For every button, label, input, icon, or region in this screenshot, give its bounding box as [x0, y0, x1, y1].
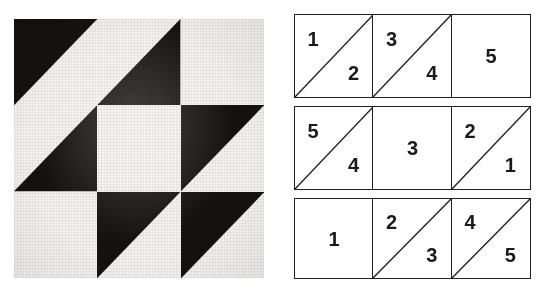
quilt-block-photo: [14, 19, 264, 278]
photo-cell-r1c3: [181, 19, 264, 105]
half-square-triangle-dark-lower-right-icon: [97, 19, 180, 105]
photo-cell-r2c2: [97, 105, 180, 191]
half-square-triangle-dark-upper-left-icon: [14, 19, 97, 105]
piece-number: 4: [348, 155, 359, 175]
figure-root: 1 2 3 4 5 5 4: [0, 0, 545, 299]
piece-number: 2: [464, 121, 475, 141]
diagram-row-2: 5 4 3 2 1: [294, 106, 531, 190]
piece-number: 4: [464, 212, 475, 232]
diagram-cell-r3c1[interactable]: 1: [294, 198, 374, 279]
diagram-cell-r2c1[interactable]: 5 4: [294, 106, 374, 190]
piece-number: 2: [386, 212, 397, 232]
plain-light-square-icon: [181, 19, 264, 105]
diagram-cell-r1c2[interactable]: 3 4: [372, 14, 452, 98]
piece-number: 5: [307, 121, 318, 141]
plain-light-square-icon: [14, 192, 97, 278]
photo-cell-r3c3: [181, 192, 264, 278]
piece-number: 3: [407, 138, 418, 158]
photo-cell-r1c1: [14, 19, 97, 105]
piece-number: 3: [386, 29, 397, 49]
diagram-cell-r1c1[interactable]: 1 2: [294, 14, 374, 98]
photo-cell-r2c1: [14, 105, 97, 191]
half-square-triangle-dark-upper-left-icon: [97, 192, 180, 278]
piece-number: 5: [485, 46, 496, 66]
diagram-cell-r3c2[interactable]: 2 3: [372, 198, 452, 279]
half-square-triangle-dark-lower-right-icon: [14, 105, 97, 191]
piece-number: 2: [348, 63, 359, 83]
diagram-cell-r2c3[interactable]: 2 1: [451, 106, 531, 190]
photo-cell-r3c1: [14, 192, 97, 278]
plain-light-square-icon: [97, 105, 180, 191]
diagram-cell-r1c3[interactable]: 5: [451, 14, 531, 98]
photo-cell-r3c2: [97, 192, 180, 278]
piecing-order-diagram: 1 2 3 4 5 5 4: [294, 14, 531, 279]
piece-number: 1: [307, 29, 318, 49]
diagram-cell-r3c3[interactable]: 4 5: [451, 198, 531, 279]
diagram-row-3: 1 2 3 4 5: [294, 198, 531, 279]
photo-cell-r2c3: [181, 105, 264, 191]
half-square-triangle-dark-upper-left-icon: [181, 105, 264, 191]
quilt-block-grid: [14, 19, 264, 278]
diagram-row-1: 1 2 3 4 5: [294, 14, 531, 98]
photo-cell-r1c2: [97, 19, 180, 105]
piece-number: 1: [328, 229, 339, 249]
diagram-cell-r2c2[interactable]: 3: [372, 106, 452, 190]
piece-number: 5: [505, 245, 516, 265]
piece-number: 1: [505, 155, 516, 175]
piece-number: 3: [426, 245, 437, 265]
half-square-triangle-dark-upper-left-icon: [181, 192, 264, 278]
piece-number: 4: [426, 63, 437, 83]
